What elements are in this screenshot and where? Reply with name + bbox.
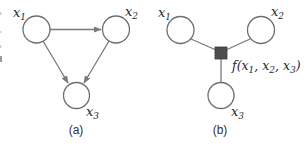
cropped-edge-marks: [0, 12, 2, 62]
edge-a-x2-x3: [84, 41, 109, 83]
panel-a-directed-graph: x1 x2 x3 (a): [13, 4, 138, 137]
graphical-model-figure: x1 x2 x3 (a) x1 x2 x3: [0, 0, 307, 146]
factor-node-f: [215, 47, 227, 59]
label-a-x1: x1: [13, 5, 26, 22]
label-b-x3: x3: [231, 104, 244, 121]
edge-b-x2-f: [226, 39, 250, 50]
label-factor-f: f(x1, x2, x3): [231, 58, 301, 75]
node-a-x2: [103, 16, 130, 43]
caption-a: (a): [69, 123, 84, 137]
node-a-x1: [23, 16, 50, 43]
label-b-x1: x1: [158, 5, 171, 22]
node-b-x2: [248, 17, 275, 44]
panel-b-factor-graph: x1 x2 x3 f(x1, x2, x3) (b): [158, 4, 301, 137]
label-a-x2: x2: [125, 4, 138, 21]
caption-b: (b): [213, 123, 228, 137]
label-a-x3: x3: [86, 104, 99, 121]
edge-b-x1-f: [191, 39, 216, 50]
edge-a-x1-x3: [43, 41, 68, 83]
label-b-x2: x2: [271, 4, 284, 21]
